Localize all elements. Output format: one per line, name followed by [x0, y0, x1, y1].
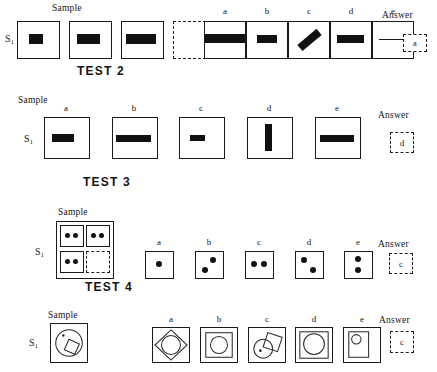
stimulus-label: S1 — [35, 246, 44, 257]
dot — [73, 259, 78, 264]
circle-square-dot-icon — [51, 324, 87, 362]
dot — [310, 267, 316, 273]
sample-caption: Sample — [58, 207, 88, 217]
stimulus-subscript: 1 — [11, 38, 14, 45]
option-e[interactable] — [344, 251, 373, 279]
circle-square-overlap-dot-icon — [249, 328, 285, 362]
stimulus-label: S1 — [5, 33, 14, 44]
sample-cell-3 — [121, 21, 164, 59]
answer-box[interactable]: a — [403, 34, 427, 52]
square-diamond-circle-icon — [153, 328, 189, 362]
option-letter-e: e — [383, 6, 403, 16]
option-b[interactable] — [200, 327, 238, 363]
option-e[interactable] — [315, 117, 361, 159]
black-bar — [337, 35, 363, 43]
test-label: TEST 3 — [83, 175, 131, 189]
option-letter-b: b — [124, 103, 144, 113]
answer-caption: Answer — [378, 239, 409, 249]
dot — [91, 233, 96, 238]
option-letter-b: b — [209, 314, 229, 324]
option-letter-e: e — [352, 314, 372, 324]
option-letter-d: d — [259, 103, 279, 113]
black-bar-tilted — [297, 29, 321, 51]
option-letter-d: d — [304, 314, 324, 324]
dot — [65, 259, 70, 264]
dot — [65, 233, 70, 238]
row-shapes: Sample Answer S1 a b c d e — [0, 295, 437, 372]
option-letter-a: a — [149, 237, 169, 247]
option-letter-c: c — [299, 6, 319, 16]
dot — [202, 267, 208, 273]
option-letter-a: a — [215, 6, 235, 16]
option-c[interactable] — [288, 21, 330, 59]
option-letter-c: c — [249, 237, 269, 247]
matrix-cell-3 — [60, 251, 84, 273]
option-b[interactable] — [195, 251, 224, 279]
matrix-cell-2 — [86, 225, 110, 247]
option-b[interactable] — [246, 21, 288, 59]
dot — [156, 261, 162, 267]
option-d[interactable] — [330, 21, 372, 59]
row-test-4: Sample Answer S1 a b c d e — [0, 195, 437, 295]
stimulus-subscript: 1 — [35, 342, 38, 349]
black-bar-vertical — [265, 124, 272, 151]
stimulus-letter: S — [24, 133, 30, 144]
option-c[interactable] — [179, 117, 225, 159]
stimulus-letter: S — [5, 33, 11, 44]
dot — [73, 233, 78, 238]
dot — [301, 257, 307, 263]
answer-box[interactable]: c — [389, 253, 413, 274]
black-bar — [126, 34, 156, 43]
option-letter-d: d — [299, 237, 319, 247]
black-bar — [77, 34, 100, 43]
dot — [99, 233, 104, 238]
row-test-3: Sample Answer S1 a b c d e d TEST 3 — [0, 90, 437, 195]
test-label: TEST 4 — [85, 280, 133, 294]
option-c[interactable] — [245, 251, 274, 279]
option-d[interactable] — [247, 117, 293, 159]
rect-small-circle-icon — [344, 328, 380, 362]
stimulus-label: S1 — [24, 133, 33, 144]
sample-cell-1 — [17, 21, 60, 59]
stimulus-letter: S — [29, 337, 35, 348]
black-bar — [205, 34, 246, 43]
option-c[interactable] — [248, 327, 286, 363]
option-a[interactable] — [145, 251, 174, 279]
stimulus-label: S1 — [29, 337, 38, 348]
dot — [251, 261, 257, 267]
option-letter-b: b — [257, 6, 277, 16]
option-a[interactable] — [44, 117, 90, 159]
answer-box[interactable]: d — [390, 132, 414, 153]
option-letter-b: b — [199, 237, 219, 247]
option-letter-c: c — [257, 314, 277, 324]
option-e[interactable] — [343, 327, 381, 363]
stimulus-subscript: 1 — [41, 251, 44, 258]
option-letter-a: a — [161, 314, 181, 324]
matrix-cell-1 — [60, 225, 84, 247]
sample-cell-2 — [69, 21, 112, 59]
option-letter-e: e — [327, 103, 347, 113]
sample-caption: Sample — [48, 310, 78, 320]
row-test-2: Sample Answer S1 a b c d e — [0, 0, 437, 90]
black-bar — [52, 134, 74, 142]
option-letter-a: a — [56, 103, 76, 113]
stimulus-letter: S — [35, 246, 41, 257]
answer-box[interactable]: c — [390, 331, 414, 353]
sample-caption: Sample — [18, 95, 48, 105]
black-bar — [320, 135, 354, 141]
square-in-square-big-circle-icon — [296, 328, 332, 362]
answer-caption: Answer — [378, 110, 409, 120]
dot — [355, 267, 361, 273]
matrix-cell-missing — [86, 251, 110, 273]
option-a[interactable] — [152, 327, 190, 363]
black-bar — [190, 135, 205, 141]
option-a[interactable] — [204, 21, 246, 59]
option-d[interactable] — [295, 251, 324, 279]
option-b[interactable] — [112, 117, 158, 159]
black-bar — [116, 135, 151, 142]
option-d[interactable] — [295, 327, 333, 363]
dot — [261, 261, 267, 267]
black-bar — [29, 34, 44, 43]
sample-caption: Sample — [52, 3, 82, 13]
square-in-square-circle-icon — [201, 328, 237, 362]
